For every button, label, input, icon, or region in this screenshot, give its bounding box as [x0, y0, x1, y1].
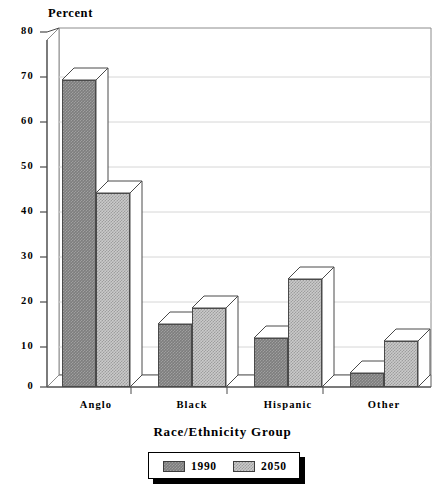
bar-black-2050[interactable] — [192, 308, 226, 387]
bar-face — [384, 341, 418, 387]
bar-face — [192, 308, 226, 387]
x-axis — [47, 387, 431, 394]
x-axis-title: Race/Ethnicity Group — [0, 424, 445, 440]
bar-black-1990[interactable] — [158, 324, 192, 387]
legend-item-1990[interactable]: 1990 — [163, 460, 217, 472]
ytick-label: 30 — [4, 250, 34, 261]
legend-label-1990: 1990 — [191, 460, 217, 472]
xtick-label-hispanic: Hispanic — [240, 399, 336, 410]
xtick-label-other: Other — [336, 399, 432, 410]
bar-face — [96, 193, 130, 387]
bar-hispanic-1990[interactable] — [254, 338, 288, 387]
ytick-label: 10 — [4, 340, 34, 351]
xtick-label-black: Black — [144, 399, 240, 410]
bar-anglo-2050[interactable] — [96, 193, 130, 387]
ytick-label: 80 — [4, 25, 34, 36]
ytick-label: 0 — [4, 380, 34, 391]
bar-face — [254, 338, 288, 387]
bar-face — [288, 279, 322, 387]
xtick-label-anglo: Anglo — [48, 399, 144, 410]
bar-other-2050[interactable] — [384, 341, 418, 387]
ytick-label: 50 — [4, 160, 34, 171]
ytick-label: 20 — [4, 295, 34, 306]
legend-label-2050: 2050 — [261, 460, 287, 472]
bar-anglo-1990[interactable] — [62, 80, 96, 387]
ytick-label: 70 — [4, 70, 34, 81]
legend-swatch-1990 — [163, 461, 185, 472]
bar-other-1990[interactable] — [350, 373, 384, 387]
bar-face — [62, 80, 96, 387]
ytick-label: 40 — [4, 205, 34, 216]
bar-face — [350, 373, 384, 387]
legend-swatch-2050 — [233, 461, 255, 472]
bar-hispanic-2050[interactable] — [288, 279, 322, 387]
chart-figure: Percent — [0, 0, 445, 498]
legend: 1990 2050 — [148, 452, 300, 479]
bar-face — [158, 324, 192, 387]
left-wall — [47, 28, 59, 387]
legend-item-2050[interactable]: 2050 — [233, 460, 287, 472]
ytick-label: 60 — [4, 115, 34, 126]
